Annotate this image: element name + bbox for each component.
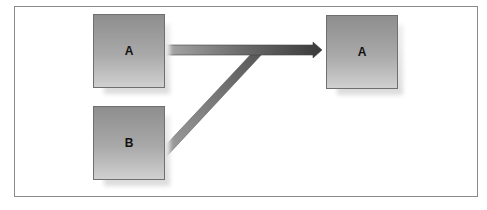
node-label: B <box>125 136 134 150</box>
node-target-a: A <box>326 15 398 89</box>
connectors <box>0 0 487 210</box>
node-label: A <box>125 44 134 58</box>
node-source-b: B <box>93 106 165 180</box>
arrow-a-to-a <box>165 42 322 58</box>
diagonal-connector <box>165 52 264 158</box>
node-source-a: A <box>93 14 165 88</box>
node-label: A <box>358 45 367 59</box>
